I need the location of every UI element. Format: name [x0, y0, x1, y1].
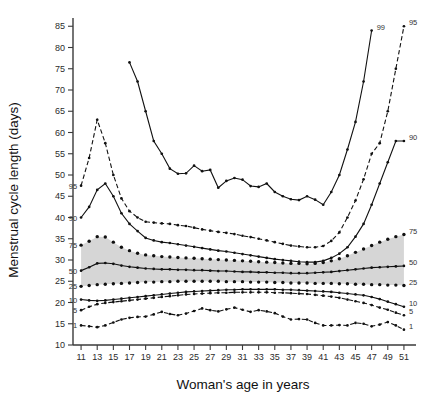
marker-1	[378, 323, 381, 326]
marker-99	[257, 186, 260, 189]
marker-10	[257, 288, 260, 291]
marker-75	[168, 255, 171, 258]
marker-1	[298, 318, 301, 321]
marker-90	[282, 259, 285, 262]
marker-95	[330, 240, 333, 243]
series-label-right-25: 25	[409, 278, 417, 287]
marker-5	[152, 296, 155, 299]
marker-90	[96, 189, 99, 192]
marker-1	[160, 311, 163, 314]
marker-5	[169, 295, 172, 298]
marker-1	[330, 324, 333, 327]
marker-5	[386, 308, 389, 311]
marker-75	[144, 253, 147, 256]
marker-5	[403, 314, 406, 317]
marker-99	[152, 140, 155, 143]
marker-10	[370, 296, 373, 299]
marker-90	[152, 239, 155, 242]
marker-50	[386, 265, 389, 268]
marker-50	[290, 272, 293, 275]
marker-75	[289, 262, 292, 265]
marker-1	[265, 310, 268, 313]
marker-10	[378, 298, 381, 301]
x-tick-label: 43	[334, 352, 344, 362]
marker-95	[249, 236, 252, 239]
marker-25	[144, 280, 147, 283]
x-tick-label: 11	[76, 352, 85, 362]
x-tick-label: 19	[141, 352, 151, 362]
marker-95	[346, 216, 349, 219]
marker-75	[322, 261, 325, 264]
marker-90	[362, 223, 365, 226]
marker-1	[112, 321, 115, 324]
marker-25	[160, 280, 163, 283]
marker-25	[233, 280, 236, 283]
marker-10	[249, 288, 252, 291]
marker-75	[257, 260, 260, 263]
marker-25	[281, 281, 284, 284]
y-tick-label: 80	[55, 43, 65, 53]
y-tick-label: 30	[55, 255, 65, 265]
x-tick-label: 35	[270, 352, 280, 362]
marker-50	[362, 267, 365, 270]
y-tick-label: 40	[55, 213, 65, 223]
marker-5	[104, 302, 107, 305]
marker-1	[233, 306, 236, 309]
marker-50	[152, 268, 155, 271]
marker-25	[241, 280, 244, 283]
x-tick-label: 29	[221, 352, 231, 362]
marker-99	[298, 199, 301, 202]
marker-5	[144, 297, 147, 300]
marker-5	[249, 291, 252, 294]
marker-95	[378, 142, 381, 145]
marker-75	[200, 257, 203, 260]
marker-75	[152, 254, 155, 257]
marker-1	[282, 315, 285, 318]
marker-95	[152, 221, 155, 224]
marker-99	[217, 186, 220, 189]
marker-95	[322, 245, 325, 248]
marker-1	[169, 313, 172, 316]
marker-90	[273, 258, 276, 261]
marker-1	[314, 322, 317, 325]
marker-90	[209, 248, 212, 251]
series-label-right-95: 95	[409, 18, 417, 27]
marker-90	[257, 255, 260, 258]
marker-50	[282, 271, 285, 274]
marker-50	[217, 270, 220, 273]
marker-25	[322, 282, 325, 285]
series-label-left-25: 25	[69, 282, 77, 291]
marker-90	[185, 244, 188, 247]
marker-1	[306, 318, 309, 321]
marker-10	[185, 291, 188, 294]
marker-90	[233, 251, 236, 254]
marker-95	[290, 244, 293, 247]
marker-99	[209, 169, 212, 172]
marker-95	[160, 222, 163, 225]
series-label-left-50: 50	[69, 267, 77, 276]
marker-50	[160, 268, 163, 271]
marker-10	[338, 291, 341, 294]
marker-95	[298, 245, 301, 248]
marker-90	[338, 252, 341, 255]
marker-50	[322, 271, 325, 274]
marker-99	[185, 172, 188, 175]
marker-1	[209, 309, 212, 312]
marker-25	[128, 281, 131, 284]
series-label-left-5: 5	[73, 306, 77, 315]
marker-50	[298, 272, 301, 275]
marker-95	[201, 228, 204, 231]
marker-10	[177, 291, 180, 294]
marker-95	[338, 231, 341, 234]
marker-50	[273, 271, 276, 274]
marker-50	[354, 268, 357, 271]
marker-25	[370, 283, 373, 286]
marker-99	[136, 80, 139, 83]
y-axis-title: Menstrual cycle length (days)	[6, 102, 21, 278]
marker-25	[297, 281, 300, 284]
marker-75	[241, 259, 244, 262]
x-tick-label: 13	[92, 352, 102, 362]
marker-25	[87, 284, 90, 287]
marker-90	[128, 223, 131, 226]
marker-10	[233, 288, 236, 291]
